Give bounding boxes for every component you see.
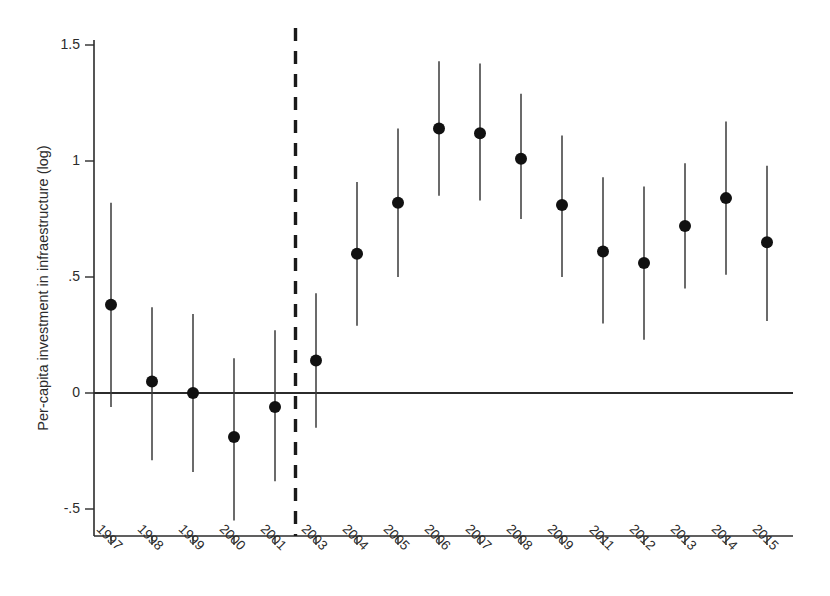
event-study-plot: 1.51.50-.5Per-capita investment in infra… <box>0 0 830 596</box>
x-tick-label: 2000 <box>217 521 249 553</box>
x-tick-label: 2012 <box>627 521 659 553</box>
data-point-marker <box>720 192 732 204</box>
data-point-marker <box>392 197 404 209</box>
data-point-marker <box>433 123 445 135</box>
y-tick-label: 1 <box>72 152 80 168</box>
x-tick-label: 1997 <box>94 521 126 553</box>
data-point-marker <box>269 401 281 413</box>
x-tick-label: 2015 <box>750 521 782 553</box>
x-tick-label: 2008 <box>504 521 536 553</box>
data-point-marker <box>761 236 773 248</box>
data-point-marker <box>228 431 240 443</box>
data-point-marker <box>638 257 650 269</box>
data-point-marker <box>351 248 363 260</box>
data-point-marker <box>556 199 568 211</box>
data-point-marker <box>310 355 322 367</box>
x-tick-label: 2005 <box>381 521 413 553</box>
data-point-marker <box>679 220 691 232</box>
x-tick-label: 2009 <box>545 521 577 553</box>
x-tick-label: 2006 <box>422 521 454 553</box>
x-tick-label: 2007 <box>463 521 495 553</box>
data-point-marker <box>146 375 158 387</box>
y-tick-label: 0 <box>72 384 80 400</box>
x-tick-label: 1999 <box>176 521 208 553</box>
data-point-marker <box>515 153 527 165</box>
x-tick-label: 2004 <box>340 521 372 553</box>
data-point-marker <box>474 127 486 139</box>
x-tick-label: 2013 <box>668 521 700 553</box>
y-tick-label: -.5 <box>64 500 81 516</box>
x-tick-label: 2003 <box>299 521 331 553</box>
data-point-marker <box>105 299 117 311</box>
y-axis-title: Per-capita investment in infraestructure… <box>35 145 51 430</box>
x-tick-label: 1998 <box>135 521 167 553</box>
y-tick-label: .5 <box>68 268 80 284</box>
chart-figure: 1.51.50-.5Per-capita investment in infra… <box>0 0 830 596</box>
x-tick-label: 2014 <box>709 521 741 553</box>
data-point-marker <box>187 387 199 399</box>
x-tick-label: 2001 <box>258 521 290 553</box>
x-tick-label: 2011 <box>586 522 617 553</box>
y-tick-label: 1.5 <box>61 36 81 52</box>
data-point-marker <box>597 245 609 257</box>
